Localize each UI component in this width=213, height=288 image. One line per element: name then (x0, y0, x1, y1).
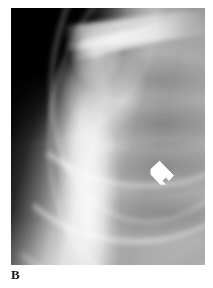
panel-label: B (11, 268, 20, 281)
chest-shoulder-radiograph (11, 8, 205, 265)
rib-arc-4 (11, 46, 205, 265)
arrow-annotation-icon (148, 158, 178, 187)
figure-panel: B (0, 0, 213, 288)
